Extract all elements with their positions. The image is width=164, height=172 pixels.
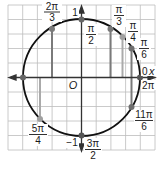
point-5pi-4 [37,116,43,122]
y-axis-arrow-up-icon [79,6,84,13]
point-11pi-6 [129,104,135,110]
label-two-pi: 2π [142,80,155,91]
label-2pi-3-den: 3 [49,12,55,23]
x-axis-arrow-left-icon [9,75,16,80]
label-pi-6-den: 6 [141,49,147,60]
label-zero: 0 [142,66,148,77]
point-pi [20,75,26,81]
label-3pi-2-num: 3π [87,138,100,149]
label-5pi-4-den: 4 [35,135,41,146]
label-pi-4-den: 4 [130,32,136,43]
label-11pi-6-den: 6 [141,121,147,132]
label-pi-4-num: π [130,20,137,31]
label-pi-3-den: 3 [116,16,122,27]
label-3pi-2-den: 2 [90,150,96,161]
label-11pi-6-num: 11π [135,109,152,120]
y-top-value-label: 1 [72,7,78,18]
origin-label: O [69,79,78,91]
point-pi-6 [129,46,135,52]
point-pi-4 [120,34,126,40]
label-pi-2-num: π [88,23,95,34]
point-3pi-2 [79,133,85,139]
label-5pi-4-num: 5π [32,123,45,134]
point-pi-2 [79,17,85,23]
label-2pi-3-num: 2π [46,1,59,12]
label-pi-2-den: 2 [88,35,94,46]
label-pi-6-num: π [141,37,148,48]
point-2pi-3 [49,26,55,32]
y-bottom-value-label: −1 [66,137,78,148]
x-axis-label: x [148,65,155,77]
unit-circle-diagram: 2π 3 1 π 2 π 3 π 4 π 6 0 x 2π O [0,0,164,172]
label-pi-3-num: π [116,4,123,15]
